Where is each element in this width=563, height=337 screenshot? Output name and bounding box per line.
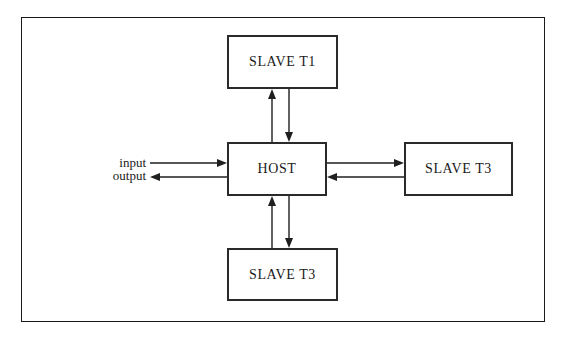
node-slave-t1[interactable]: SLAVE T1 [227,35,338,89]
node-slave-t3-right-label: SLAVE T3 [425,161,492,177]
node-slave-t1-label: SLAVE T1 [249,54,316,70]
node-slave-t3-bottom-label: SLAVE T3 [249,267,316,283]
output-label: output [78,168,146,184]
node-host[interactable]: HOST [227,142,327,196]
node-slave-t3-right[interactable]: SLAVE T3 [404,142,513,196]
diagram-canvas: SLAVE T1 HOST SLAVE T3 SLAVE T3 input ou… [0,0,563,337]
node-host-label: HOST [258,161,297,177]
node-slave-t3-bottom[interactable]: SLAVE T3 [227,248,338,301]
